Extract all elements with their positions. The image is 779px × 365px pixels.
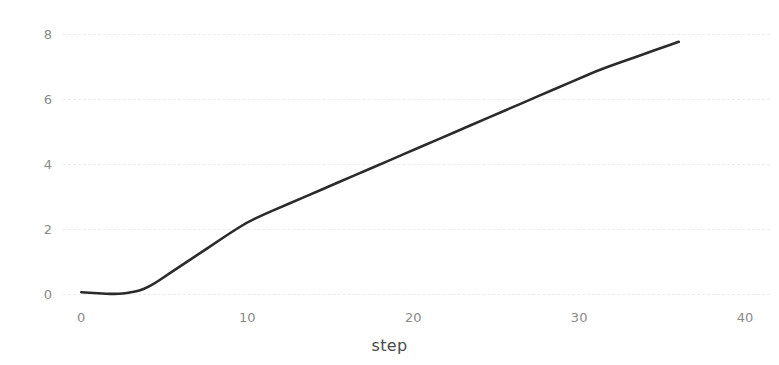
x-axis-title: step [0, 336, 779, 355]
x-axis-tick-labels: 010203040 [0, 310, 779, 328]
data-series-line [81, 42, 678, 294]
y-axis-tick-labels: 02468 [0, 32, 52, 302]
plot-area [63, 32, 770, 302]
x-tick-label: 40 [715, 310, 775, 325]
y-tick-label: 0 [12, 286, 52, 301]
x-tick-label: 20 [383, 310, 443, 325]
y-tick-label: 4 [12, 156, 52, 171]
x-tick-label: 30 [549, 310, 609, 325]
y-tick-label: 2 [12, 221, 52, 236]
line-chart: 02468 010203040 step [0, 0, 779, 365]
data-line-svg [63, 32, 770, 302]
x-tick-label: 10 [217, 310, 277, 325]
y-tick-label: 6 [12, 91, 52, 106]
x-tick-label: 0 [51, 310, 111, 325]
y-tick-label: 8 [12, 26, 52, 41]
